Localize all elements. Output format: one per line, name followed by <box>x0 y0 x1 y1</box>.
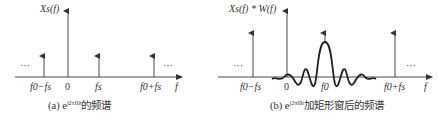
axis-label-f: f <box>175 81 178 92</box>
tick-fs: fs <box>95 81 102 92</box>
panel-a-caption: (a) ej2πf0t的频谱 <box>48 97 111 112</box>
panel-a-ellipsis-right: ··· <box>163 60 173 71</box>
tick-f0-minus-fs: f0−fs <box>30 81 51 92</box>
panel-b-ellipsis-left: ··· <box>233 60 243 71</box>
panel-a-ellipsis-left: ··· <box>20 60 30 71</box>
sinc-curve <box>272 42 376 86</box>
panel-a-impulses <box>44 56 154 77</box>
panel-a-axes <box>15 11 182 77</box>
tick-f0-plus-fs-b: f0+fs <box>384 81 405 92</box>
tick-zero: 0 <box>65 81 70 92</box>
panel-a-ylabel: Xs(f) <box>40 3 59 14</box>
axis-label-f-b: f <box>424 81 427 92</box>
panel-b-caption: (b) ej2πf0t加矩形窗后的频谱 <box>270 97 384 112</box>
tick-f0-minus-fs-b: f0−fs <box>240 81 261 92</box>
tick-f0-b: f0 <box>321 81 329 92</box>
panel-b-axes <box>218 11 432 77</box>
panel-b-ellipsis-right: ··· <box>406 60 416 71</box>
tick-zero-b: 0 <box>284 81 289 92</box>
panel-b-impulses <box>253 33 395 77</box>
tick-f0-plus-fs: f0+fs <box>140 81 161 92</box>
panel-b-ylabel: Xs(f) * W(f) <box>229 3 276 14</box>
